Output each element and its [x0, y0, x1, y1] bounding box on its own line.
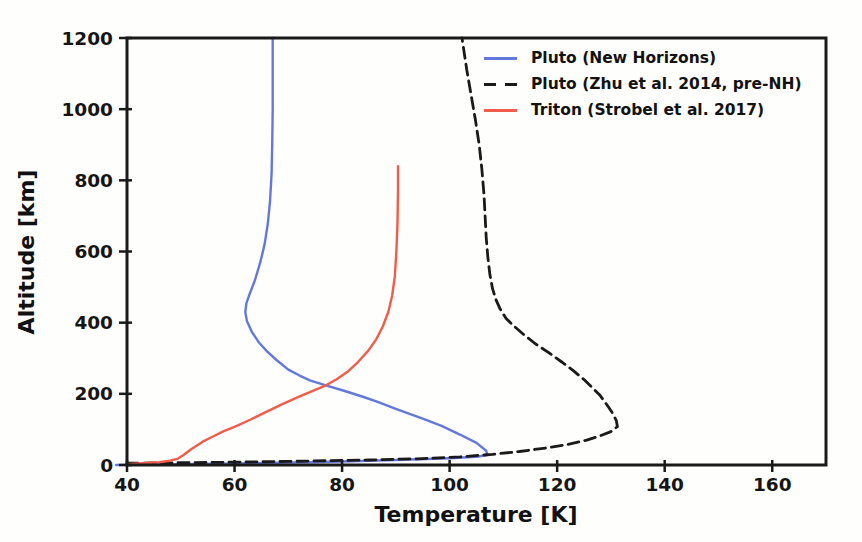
x-tick-label: 140 — [645, 474, 684, 495]
legend-item-triton-strobel-2017: Triton (Strobel et al. 2017) — [484, 97, 801, 123]
y-tick-label: 600 — [74, 241, 113, 262]
legend-item-pluto-new-horizons: Pluto (New Horizons) — [484, 45, 801, 71]
x-tick-label: 160 — [753, 474, 792, 495]
series-line-2 — [127, 166, 398, 464]
y-tick-label: 1200 — [62, 28, 114, 49]
y-tick-label: 0 — [100, 455, 113, 476]
x-axis-label: Temperature [K] — [374, 502, 577, 527]
y-tick-label: 400 — [74, 312, 113, 333]
y-tick-label: 800 — [74, 170, 113, 191]
legend-key-solid-blue-line — [484, 57, 517, 60]
legend-label: Triton (Strobel et al. 2017) — [531, 97, 764, 123]
series-line-0 — [116, 38, 487, 465]
x-tick-label: 60 — [222, 474, 248, 495]
figure: 406080100120140160020040060080010001200 … — [0, 0, 862, 542]
x-tick-label: 80 — [329, 474, 355, 495]
legend-label: Pluto (Zhu et al. 2014, pre-NH) — [531, 71, 801, 97]
y-axis-label: Altitude [km] — [14, 170, 39, 335]
legend-key-dashed-black-line — [484, 83, 517, 86]
legend: Pluto (New Horizons) Pluto (Zhu et al. 2… — [484, 45, 801, 123]
legend-item-pluto-zhu-2014: Pluto (Zhu et al. 2014, pre-NH) — [484, 71, 801, 97]
y-tick-label: 200 — [74, 383, 113, 404]
x-tick-label: 100 — [430, 474, 469, 495]
y-tick-label: 1000 — [62, 99, 114, 120]
legend-label: Pluto (New Horizons) — [531, 45, 716, 71]
x-tick-label: 120 — [538, 474, 577, 495]
x-tick-label: 40 — [114, 474, 140, 495]
legend-key-solid-red-line — [484, 109, 517, 112]
